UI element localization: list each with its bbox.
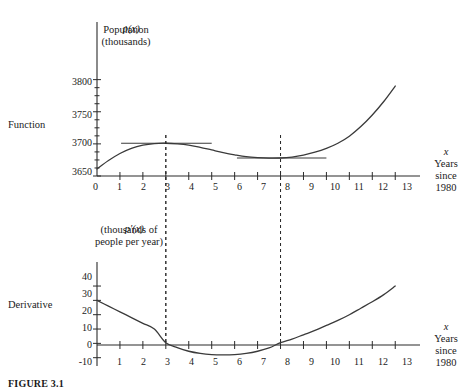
plot-vector-layer <box>0 0 475 387</box>
derivative-axis-ticks <box>93 286 395 358</box>
function-curve-group <box>97 86 395 169</box>
population-curve <box>97 86 395 169</box>
function-axis-ticks <box>93 80 395 180</box>
function-annotations <box>121 135 326 345</box>
derivative-annotations <box>166 135 281 345</box>
function-axes <box>97 22 420 176</box>
figure-root: p(x) Population (thousands) Function 380… <box>0 0 475 387</box>
